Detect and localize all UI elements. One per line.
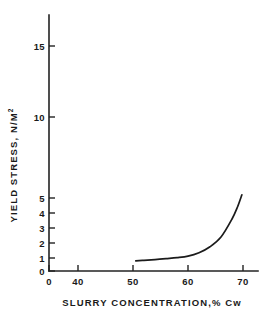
x-tick-label-0: 0 bbox=[46, 276, 52, 287]
y-tick-marks bbox=[49, 46, 55, 271]
x-tick-label-70: 70 bbox=[237, 276, 248, 287]
x-tick-label-40: 40 bbox=[72, 276, 83, 287]
y-axis-title: YIELD STRESS, N/M2 bbox=[7, 108, 19, 223]
y-tick-label-4: 4 bbox=[39, 208, 45, 219]
y-tick-label-15: 15 bbox=[34, 41, 46, 52]
y-tick-label-1: 1 bbox=[39, 253, 45, 264]
y-tick-label-10: 10 bbox=[34, 112, 45, 123]
x-tick-label-50: 50 bbox=[127, 276, 138, 287]
data-curve-yield-stress bbox=[136, 195, 242, 261]
y-tick-label-5: 5 bbox=[39, 193, 45, 204]
y-axis-title-group: YIELD STRESS, N/M2 bbox=[7, 108, 19, 223]
y-axis-title-main: YIELD STRESS, N/M bbox=[8, 112, 19, 222]
y-tick-label-0: 0 bbox=[39, 266, 45, 277]
x-tick-label-60: 60 bbox=[182, 276, 193, 287]
x-tick-marks bbox=[49, 265, 243, 271]
x-axis-title: SLURRY CONCENTRATION,% Cw bbox=[62, 297, 241, 308]
y-tick-label-2: 2 bbox=[39, 238, 45, 249]
chart-figure: 15 10 5 4 3 2 1 0 0 40 50 60 70 SLURRY C… bbox=[0, 0, 274, 319]
y-tick-label-3: 3 bbox=[39, 223, 45, 234]
yield-stress-line-chart: 15 10 5 4 3 2 1 0 0 40 50 60 70 SLURRY C… bbox=[0, 0, 274, 319]
y-axis-title-superscript: 2 bbox=[7, 108, 14, 113]
